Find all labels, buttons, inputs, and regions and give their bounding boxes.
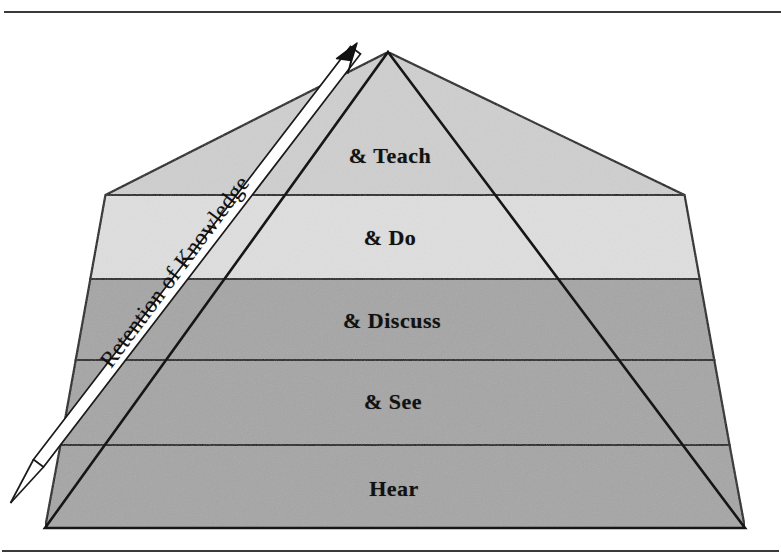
tier-label-do: & Do [364,225,417,251]
tier-label-teach: & Teach [349,143,431,169]
figure-canvas: Retention of Knowledge & Teach & Do & Di… [0,0,781,560]
tier-label-see: & See [364,389,422,415]
tier-label-discuss: & Discuss [343,308,441,334]
tier-label-hear: Hear [369,476,419,502]
tier-shape-teach[interactable] [105,52,684,195]
